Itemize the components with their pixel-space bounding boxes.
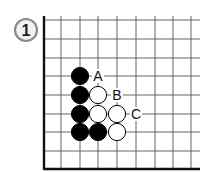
black-stone bbox=[71, 67, 88, 84]
white-stone bbox=[108, 123, 125, 140]
point-label-c: C bbox=[131, 106, 141, 122]
problem-badge: 1 bbox=[15, 19, 37, 41]
point-label-a: A bbox=[93, 68, 103, 84]
white-stone bbox=[89, 86, 106, 103]
point-label-b: B bbox=[112, 87, 121, 103]
white-stone bbox=[108, 105, 125, 122]
white-stone bbox=[89, 105, 106, 122]
black-stone bbox=[89, 123, 106, 140]
problem-number: 1 bbox=[22, 22, 31, 39]
black-stone bbox=[71, 123, 88, 140]
black-stone bbox=[71, 86, 88, 103]
black-stone bbox=[71, 105, 88, 122]
go-board-diagram: 1 ABC bbox=[0, 0, 209, 172]
